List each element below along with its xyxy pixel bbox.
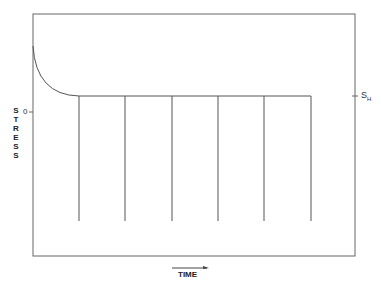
plot-frame <box>33 14 355 256</box>
stress-decay-curve <box>33 46 311 96</box>
zero-label: 0 <box>23 107 27 116</box>
sh-label: SH <box>361 90 371 102</box>
y-letter: S <box>11 106 21 115</box>
time-arrow-head <box>203 266 209 269</box>
y-axis-label: S T R E S S <box>11 106 21 160</box>
sh-sub: H <box>367 96 371 102</box>
y-letter: S <box>11 142 21 151</box>
y-letter: E <box>11 133 21 142</box>
x-axis-label: TIME <box>178 270 197 279</box>
y-letter: S <box>11 151 21 160</box>
vertical-lines <box>79 96 311 221</box>
y-letter: T <box>11 115 21 124</box>
stress-time-diagram <box>0 0 381 287</box>
y-letter: R <box>11 124 21 133</box>
